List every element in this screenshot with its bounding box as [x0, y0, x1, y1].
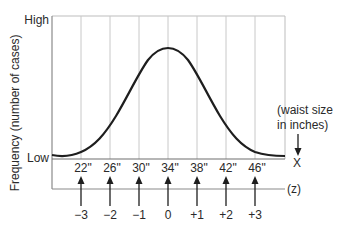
x-axis-title-line1: (waist size — [277, 103, 333, 117]
z-tick-labels: −3 −2 −1 0 +1 +2 +3 — [74, 208, 262, 222]
y-high-label: High — [24, 13, 49, 27]
grid-lines — [81, 16, 255, 159]
x-tick-label: 42" — [219, 161, 237, 175]
up-arrow-icon — [107, 176, 114, 206]
z-tick-label: +3 — [248, 208, 262, 222]
up-arrow-icon — [223, 176, 230, 206]
normal-distribution-diagram: High Low Frequency (number of cases) 22"… — [0, 0, 340, 238]
x-tick-label: 30" — [132, 161, 150, 175]
x-axis-title-line2: in inches) — [277, 118, 328, 132]
z-axis-label: (z) — [287, 182, 301, 196]
x-tick-label: 38" — [190, 161, 208, 175]
x-tick-label: 46" — [248, 161, 266, 175]
down-arrow-icon — [295, 134, 302, 156]
up-arrow-icon — [136, 176, 143, 206]
x-tick-labels: 22" 26" 30" 34" 38" 42" 46" — [74, 161, 266, 175]
z-tick-label: +1 — [190, 208, 204, 222]
x-axis-symbol: X — [293, 156, 301, 170]
z-tick-label: 0 — [165, 208, 172, 222]
z-tick-label: −3 — [74, 208, 88, 222]
up-arrow-icon — [78, 176, 85, 206]
y-low-label: Low — [27, 151, 49, 165]
x-tick-label: 34" — [161, 161, 179, 175]
y-axis-title: Frequency (number of cases) — [8, 35, 22, 192]
z-arrows — [78, 176, 259, 206]
up-arrow-icon — [165, 176, 172, 206]
z-tick-label: −2 — [103, 208, 117, 222]
up-arrow-icon — [194, 176, 201, 206]
z-tick-label: +2 — [219, 208, 233, 222]
up-arrow-icon — [252, 176, 259, 206]
z-tick-label: −1 — [132, 208, 146, 222]
x-tick-label: 26" — [103, 161, 121, 175]
x-tick-label: 22" — [74, 161, 92, 175]
